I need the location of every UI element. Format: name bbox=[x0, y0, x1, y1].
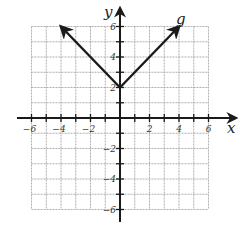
graph-figure: −6−4−2246−6−4−2246xyg x y g bbox=[0, 0, 245, 227]
y-tick-label: 4 bbox=[109, 52, 116, 62]
x-axis-label: x bbox=[227, 119, 236, 137]
x-tick-label: 6 bbox=[206, 124, 212, 134]
y-axis-label: y bbox=[103, 3, 113, 21]
coordinate-plane: −6−4−2246−6−4−2246xyg bbox=[0, 0, 245, 227]
x-tick-label: −4 bbox=[52, 124, 66, 134]
y-tick-label: −2 bbox=[103, 144, 117, 154]
x-tick-label: −2 bbox=[82, 124, 96, 134]
y-tick-label: −4 bbox=[103, 174, 117, 184]
x-tick-label: −6 bbox=[23, 124, 37, 134]
y-tick-label: −6 bbox=[103, 205, 117, 215]
x-tick-label: 4 bbox=[175, 124, 182, 134]
x-tick-label: 2 bbox=[146, 124, 153, 134]
y-tick-label: 6 bbox=[110, 22, 116, 32]
function-label: g bbox=[176, 10, 186, 28]
